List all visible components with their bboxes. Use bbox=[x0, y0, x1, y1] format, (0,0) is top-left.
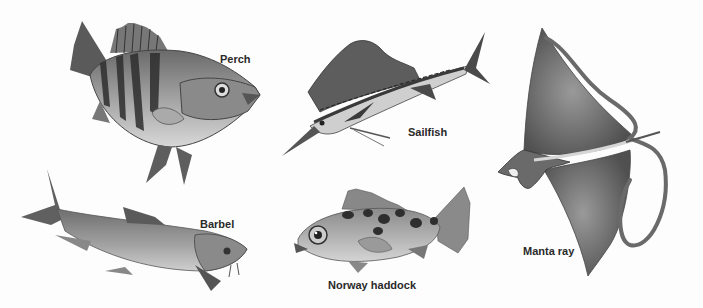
perch-label: Perch bbox=[220, 53, 251, 65]
manta-ray-label: Manta ray bbox=[523, 245, 574, 257]
sailfish-label: Sailfish bbox=[408, 126, 447, 138]
norway-haddock-illustration bbox=[288, 183, 473, 275]
sailfish-illustration bbox=[280, 30, 495, 160]
fish-illustration-plate: Perch Sailfish bbox=[0, 0, 703, 308]
manta-ray-illustration bbox=[490, 20, 700, 290]
barbel-label: Barbel bbox=[200, 218, 234, 230]
norway-haddock-label: Norway haddock bbox=[328, 279, 416, 291]
barbel-illustration bbox=[15, 165, 255, 295]
